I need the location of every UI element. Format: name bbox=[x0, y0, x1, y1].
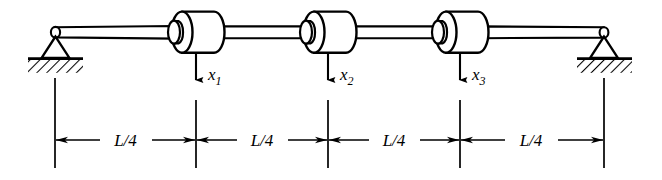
dim-label-4: L/4 bbox=[519, 131, 543, 150]
dim-label-2: L/4 bbox=[250, 131, 274, 150]
left-pin-support bbox=[28, 37, 83, 73]
dim-label-3: L/4 bbox=[382, 131, 406, 150]
mechanical-diagram: x1 x2 x3 L/4 L/4 bbox=[0, 0, 662, 180]
extension-lines bbox=[55, 78, 604, 168]
dim-segment-4: L/4 bbox=[461, 131, 603, 150]
label-x1: x1 bbox=[207, 65, 222, 88]
label-x2: x2 bbox=[339, 65, 354, 88]
right-pin-support bbox=[577, 37, 632, 73]
figure-canvas: x1 x2 x3 L/4 L/4 bbox=[0, 0, 662, 180]
mass-1 bbox=[168, 12, 225, 53]
dim-label-1: L/4 bbox=[113, 131, 137, 150]
dim-segment-2: L/4 bbox=[197, 131, 327, 150]
label-x3: x3 bbox=[471, 65, 486, 88]
mass-2 bbox=[300, 12, 357, 53]
dim-segment-3: L/4 bbox=[329, 131, 459, 150]
mass-3 bbox=[432, 12, 489, 53]
dim-segment-1: L/4 bbox=[56, 131, 195, 150]
